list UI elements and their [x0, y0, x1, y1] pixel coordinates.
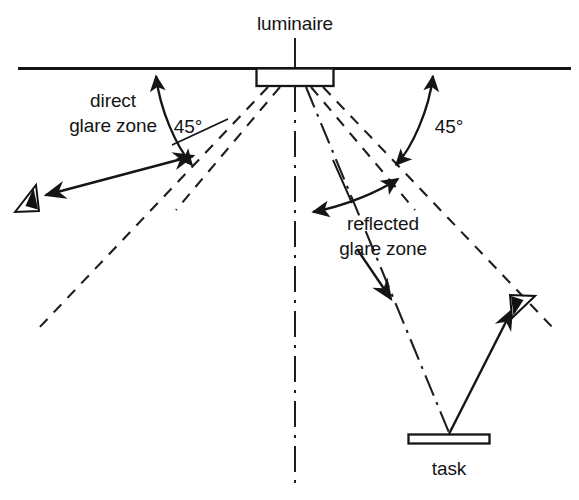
- direct-glare-label-line1: direct: [90, 90, 137, 111]
- luminaire-label: luminaire: [257, 13, 333, 34]
- reflected-glare-label-line2: glare zone: [339, 238, 427, 259]
- ray-luminaire-to-task: [306, 87, 450, 435]
- angle-arc-right: [396, 76, 433, 165]
- reflected-arc-leader: [333, 160, 352, 203]
- ray-right-inner: [311, 87, 415, 210]
- ray-left-inner: [176, 87, 280, 210]
- angle-label-right: 45°: [435, 116, 464, 137]
- glare-diagram-figure: luminaire 45° 45° direct glare zone refl…: [0, 0, 579, 500]
- reflected-ray-to-eye: [449, 310, 512, 434]
- luminaire-body: [257, 69, 334, 87]
- direct-glare-label-line2: glare zone: [69, 115, 157, 136]
- task-label: task: [432, 458, 467, 479]
- reflected-glare-label-line1: reflected: [347, 213, 419, 234]
- task-surface: [409, 435, 490, 444]
- eye-symbol-left: [15, 185, 39, 212]
- glare-diagram-canvas: luminaire 45° 45° direct glare zone refl…: [0, 0, 579, 500]
